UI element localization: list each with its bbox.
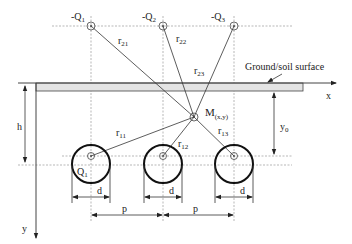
r13-label: r13: [218, 125, 229, 138]
r23-label: r23: [194, 65, 205, 78]
r22-label: r22: [176, 33, 187, 46]
reference-lines: [18, 16, 292, 222]
point-m: [190, 113, 198, 121]
h-dimension-label: h: [17, 121, 22, 132]
x-axis-label: x: [326, 90, 331, 101]
d-label-1: d: [97, 185, 102, 196]
ground-surface-label: Ground/soil surface: [245, 61, 325, 72]
r11-label: r11: [116, 127, 127, 140]
image-charge-3-label: -Q3: [211, 11, 226, 24]
point-m-label: M(x,y): [205, 106, 229, 121]
d-label-3: d: [240, 185, 245, 196]
p-label-1: p: [122, 203, 127, 214]
conductor-distance-lines: [91, 117, 234, 156]
conductor-1-label: Q1: [77, 166, 88, 179]
y-axis-label: y: [22, 223, 27, 234]
ground-surface: [36, 83, 303, 91]
image-charge-diagram: x y Ground/soil surface -Q1 -Q2 -Q3 r21 …: [0, 0, 352, 244]
conductors: [72, 145, 253, 183]
p-label-2: p: [193, 203, 198, 214]
y0-dimension-label: y0: [280, 121, 289, 134]
r12-label: r12: [178, 138, 189, 151]
r21-label: r21: [118, 35, 129, 48]
ground-label-pointer: [268, 74, 282, 82]
d-label-2: d: [169, 185, 174, 196]
image-distance-lines: [91, 26, 234, 117]
image-charge-1-label: -Q1: [71, 11, 86, 24]
image-charge-2-label: -Q2: [142, 11, 157, 24]
